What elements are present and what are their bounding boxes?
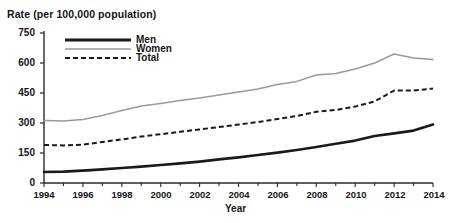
x-tick-label-1994: 1994 — [27, 189, 61, 200]
x-tick-label-2002: 2002 — [183, 189, 217, 200]
x-tick-label-1996: 1996 — [66, 189, 100, 200]
y-tick-label-600: 600 — [7, 57, 35, 68]
data-series-group — [44, 54, 433, 172]
x-tick-label-2014: 2014 — [417, 189, 450, 200]
x-tick-label-2012: 2012 — [378, 189, 412, 200]
x-tick-label-2010: 2010 — [339, 189, 373, 200]
x-tick-label-2004: 2004 — [222, 189, 256, 200]
y-tick-label-750: 750 — [7, 27, 35, 38]
y-tick-label-450: 450 — [7, 87, 35, 98]
legend-label-total: Total — [136, 52, 159, 63]
x-tick-label-2006: 2006 — [261, 189, 295, 200]
y-tick-label-150: 150 — [7, 147, 35, 158]
x-axis-title: Year — [225, 203, 246, 214]
series-line-men — [44, 125, 433, 172]
y-tick-label-300: 300 — [7, 117, 35, 128]
series-line-women — [44, 54, 433, 121]
y-tick-label-0: 0 — [7, 177, 35, 188]
x-tick-label-1998: 1998 — [105, 189, 139, 200]
x-tick-label-2000: 2000 — [144, 189, 178, 200]
x-axis-ticks — [44, 183, 433, 187]
legend-swatches — [65, 40, 131, 58]
x-tick-label-2008: 2008 — [300, 189, 334, 200]
